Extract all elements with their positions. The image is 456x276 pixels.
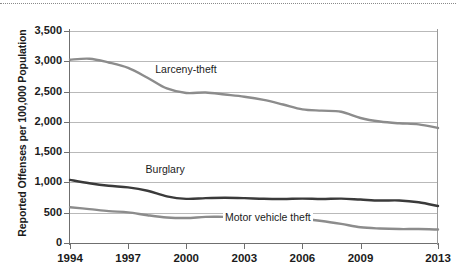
y-tick-label-2000: 2,000 xyxy=(6,116,62,127)
y-tick-label-wrap-1500: 1,500 xyxy=(0,146,62,158)
y-tick-mark-2000 xyxy=(64,122,70,123)
y-tick-label-wrap-3500: 3,500 xyxy=(0,25,62,37)
y-tick-mark-2500 xyxy=(64,92,70,93)
gridline-2000 xyxy=(70,122,438,123)
x-tick-mark-2009 xyxy=(361,243,362,249)
x-tick-label-2006: 2006 xyxy=(272,252,332,265)
series-label-motor-vehicle-theft: Motor vehicle theft xyxy=(223,211,313,223)
x-tick-label-2003: 2003 xyxy=(214,252,274,265)
x-tick-label-1994: 1994 xyxy=(40,252,100,265)
plot-right-border xyxy=(437,29,438,245)
x-tick-mark-2013 xyxy=(438,243,439,249)
y-tick-label-wrap-500: 500 xyxy=(0,207,62,219)
y-tick-mark-500 xyxy=(64,213,70,214)
y-tick-label-2500: 2,500 xyxy=(6,86,62,97)
y-tick-label-1000: 1,000 xyxy=(6,176,62,187)
y-tick-label-wrap-1000: 1,000 xyxy=(0,176,62,188)
gridline-3500 xyxy=(70,31,438,32)
gridline-1000 xyxy=(70,182,438,183)
y-tick-label-wrap-2500: 2,500 xyxy=(0,86,62,98)
x-tick-mark-2003 xyxy=(244,243,245,249)
y-tick-mark-3000 xyxy=(64,61,70,62)
y-tick-mark-1000 xyxy=(64,182,70,183)
y-tick-label-3000: 3,000 xyxy=(6,55,62,66)
y-tick-label-0: 0 xyxy=(6,237,62,248)
gridline-3000 xyxy=(70,61,438,62)
x-tick-mark-1994 xyxy=(70,243,71,249)
gridline-0 xyxy=(70,243,438,244)
gridline-1500 xyxy=(70,152,438,153)
y-tick-mark-3500 xyxy=(64,31,70,32)
x-tick-label-2000: 2000 xyxy=(156,252,216,265)
crime-rate-line-chart: Reported Offenses per 100,000 Population… xyxy=(0,0,456,276)
y-tick-label-wrap-2000: 2,000 xyxy=(0,116,62,128)
y-tick-label-500: 500 xyxy=(6,207,62,218)
y-tick-label-3500: 3,500 xyxy=(6,25,62,36)
x-tick-mark-2000 xyxy=(186,243,187,249)
x-tick-mark-1997 xyxy=(128,243,129,249)
x-tick-label-1997: 1997 xyxy=(98,252,158,265)
series-label-burglary: Burglary xyxy=(144,163,187,175)
gridline-2500 xyxy=(70,92,438,93)
x-tick-mark-2006 xyxy=(302,243,303,249)
x-tick-label-2009: 2009 xyxy=(331,252,391,265)
y-tick-label-wrap-0: 0 xyxy=(0,237,62,249)
top-dotted-rule xyxy=(0,3,456,4)
y-tick-label-1500: 1,500 xyxy=(6,146,62,157)
series-label-larceny-theft: Larceny-theft xyxy=(153,63,218,75)
x-tick-label-2013: 2013 xyxy=(408,252,456,265)
y-tick-mark-1500 xyxy=(64,152,70,153)
y-tick-label-wrap-3000: 3,000 xyxy=(0,55,62,67)
